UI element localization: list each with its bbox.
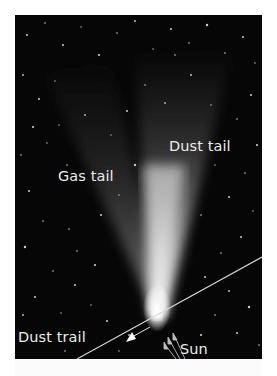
comet-illustration — [15, 15, 262, 359]
bottom-margin — [15, 359, 262, 376]
comet-coma — [143, 284, 171, 332]
sun-label: Sun — [180, 342, 208, 357]
gas-tail-label: Gas tail — [58, 169, 114, 184]
dust-trail-label: Dust trail — [18, 330, 86, 345]
comet-photo: Gas tail Dust tail Dust trail Sun — [15, 15, 262, 359]
dust-tail-label: Dust tail — [169, 139, 231, 154]
